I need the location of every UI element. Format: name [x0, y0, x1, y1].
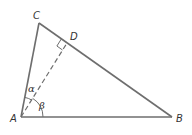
label-alpha: α — [28, 83, 35, 94]
side-cb — [39, 23, 172, 117]
label-beta: β — [38, 100, 45, 111]
label-a: A — [9, 113, 17, 124]
right-angle-marker — [57, 39, 63, 50]
alpha-arc — [25, 97, 32, 100]
label-c: C — [33, 10, 40, 21]
label-d: D — [70, 31, 78, 42]
label-b: B — [176, 113, 183, 124]
triangle-diagram: C D A B α β — [0, 0, 192, 135]
